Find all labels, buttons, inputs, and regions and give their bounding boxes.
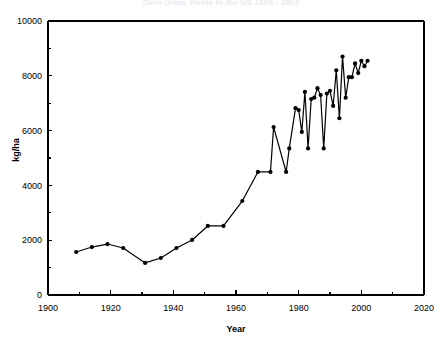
data-point [322,146,326,150]
data-point [328,89,332,93]
y-tick-label: 0 [37,290,42,300]
x-tick-label: 1920 [101,303,121,313]
data-point [256,170,260,174]
data-point [359,59,363,63]
data-point [284,170,288,174]
data-point [344,96,348,100]
x-tick-label: 1980 [289,303,309,313]
x-tick-label: 1940 [163,303,183,313]
data-point [353,61,357,65]
data-point [319,93,323,97]
x-tick-label: 1960 [226,303,246,313]
data-point [300,130,304,134]
data-point [121,246,125,250]
data-point [303,90,307,94]
x-tick-label: 2020 [414,303,434,313]
data-point [74,250,78,254]
data-point [272,125,276,129]
data-point [90,245,94,249]
data-point [356,71,360,75]
data-point [174,246,178,250]
data-point [221,224,225,228]
data-point [366,59,370,63]
data-point [362,64,366,68]
y-tick-label: 8000 [22,71,42,81]
data-point [331,104,335,108]
data-point [315,86,319,90]
chart-figure: Corn Grain Yields in the US 1909 - 2002 … [0,0,442,337]
y-tick-label: 6000 [22,126,42,136]
data-point [268,170,272,174]
x-axis-ticks [48,290,424,295]
data-point [206,224,210,228]
y-tick-label: 4000 [22,181,42,191]
y-axis-ticks [48,21,52,295]
data-point [312,96,316,100]
y-axis-title: kg/ha [11,137,21,162]
y-tick-label: 10000 [17,16,42,26]
x-tick-label: 1900 [38,303,58,313]
data-series-line [76,57,367,263]
data-point [334,68,338,72]
line-chart-plot: 0200040006000800010000 19001920194019601… [0,0,442,337]
data-series-markers [74,55,370,266]
data-point [297,108,301,112]
data-point [190,238,194,242]
data-point [105,242,109,246]
data-point [340,55,344,59]
data-point [306,146,310,150]
data-point [159,256,163,260]
data-point [287,146,291,150]
data-point [143,261,147,265]
x-tick-label: 2000 [351,303,371,313]
x-axis-title: Year [226,324,246,334]
x-axis-tick-labels: 1900192019401960198020002020 [38,303,434,313]
y-tick-label: 2000 [22,235,42,245]
data-point [350,75,354,79]
data-point [240,199,244,203]
data-point [337,116,341,120]
